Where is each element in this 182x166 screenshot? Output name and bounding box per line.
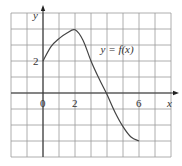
y-axis-arrow-icon xyxy=(41,5,45,11)
x-tick-label: 2 xyxy=(72,97,78,109)
y-tick-label: 2 xyxy=(33,55,39,67)
x-tick-label: 6 xyxy=(136,97,142,109)
x-tick-label: 0 xyxy=(40,97,46,109)
grid xyxy=(11,13,171,157)
function-graph: y x y = f(x) 0262 xyxy=(0,0,182,166)
x-axis-arrow-icon xyxy=(173,91,179,95)
y-axis-label: y xyxy=(32,9,38,21)
x-axis-label: x xyxy=(166,97,172,109)
tick-labels: 0262 xyxy=(33,55,142,109)
axes xyxy=(11,5,179,157)
curve-annotation: y = f(x) xyxy=(100,43,134,56)
